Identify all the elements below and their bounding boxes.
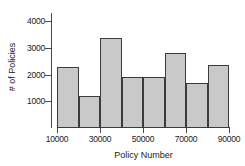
y-axis-tick-label: 1000 [15, 96, 45, 106]
x-axis-tick [229, 128, 230, 133]
histogram-bar [186, 83, 208, 128]
histogram-bar [57, 67, 79, 128]
y-axis-tick [45, 101, 52, 102]
histogram-bar [79, 96, 101, 128]
y-axis-tick-label: 2000 [15, 70, 45, 80]
histogram-bar [165, 53, 187, 128]
histogram-bar [208, 65, 230, 128]
x-axis-tick [100, 128, 101, 133]
x-axis-tick-label: 70000 [166, 134, 206, 144]
y-axis-line [51, 13, 52, 128]
x-axis-tick [57, 128, 58, 133]
x-axis-tick-label: 50000 [123, 134, 163, 144]
y-axis-tick [45, 48, 52, 49]
y-axis-title: # of Policies [7, 27, 17, 107]
histogram-bar [100, 38, 122, 128]
histogram-bar [122, 77, 144, 128]
plot-area [57, 8, 229, 128]
y-axis-tick-label: 4000 [15, 16, 45, 26]
x-axis-tick-label: 10000 [37, 134, 77, 144]
y-axis-tick-label: 3000 [15, 43, 45, 53]
x-axis-tick [186, 128, 187, 133]
y-axis-tick [45, 21, 52, 22]
x-axis-title: Policy Number [57, 150, 230, 160]
x-axis-tick-label: 90000 [209, 134, 245, 144]
x-axis-tick-label: 30000 [80, 134, 120, 144]
y-axis-tick [45, 75, 52, 76]
x-axis-tick [143, 128, 144, 133]
histogram-bar [143, 77, 165, 128]
histogram-figure: # of Policies 1000200030004000 100003000… [0, 0, 245, 166]
